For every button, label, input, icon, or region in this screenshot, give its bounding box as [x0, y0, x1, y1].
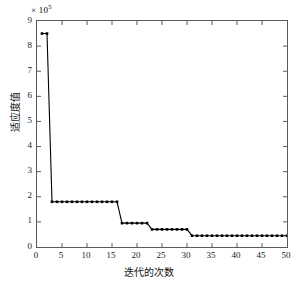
- data-point-marker: [51, 201, 54, 204]
- data-point-marker: [171, 228, 174, 231]
- data-point-marker: [276, 234, 279, 237]
- data-point-marker: [236, 234, 239, 237]
- y-axis-multiplier-base: × 10: [31, 5, 48, 15]
- y-axis-multiplier-exponent: 5: [48, 3, 51, 10]
- data-point-marker: [131, 222, 134, 225]
- data-point-marker: [251, 234, 254, 237]
- data-point-marker: [116, 201, 119, 204]
- data-point-marker: [106, 201, 109, 204]
- x-axis-tick-label: 10: [74, 251, 98, 260]
- x-axis-tick-label: 40: [224, 251, 248, 260]
- y-axis-tick-label: 3: [8, 166, 32, 175]
- data-point-marker: [41, 32, 44, 35]
- data-point-marker: [231, 234, 234, 237]
- data-point-markers: [41, 32, 287, 237]
- data-point-marker: [281, 234, 284, 237]
- y-axis-tick-label: 8: [8, 41, 32, 50]
- data-point-marker: [271, 234, 274, 237]
- data-point-marker: [136, 222, 139, 225]
- data-point-marker: [201, 234, 204, 237]
- data-point-marker: [141, 222, 144, 225]
- data-point-marker: [156, 228, 159, 231]
- data-point-marker: [166, 228, 169, 231]
- data-point-marker: [121, 222, 124, 225]
- data-point-marker: [196, 234, 199, 237]
- data-point-marker: [146, 222, 149, 225]
- data-point-marker: [61, 201, 64, 204]
- x-axis-tick-label: 20: [124, 251, 148, 260]
- data-point-marker: [216, 234, 219, 237]
- data-point-marker: [151, 228, 154, 231]
- data-point-marker: [206, 234, 209, 237]
- axis-tick-marks: [37, 21, 287, 247]
- fitness-convergence-chart: × 105 0123456789 05101520253035404550 迭代…: [0, 0, 298, 287]
- data-point-marker: [241, 234, 244, 237]
- x-axis-tick-label: 0: [24, 251, 48, 260]
- x-axis-tick-label: 25: [149, 251, 173, 260]
- data-point-marker: [186, 228, 189, 231]
- data-point-marker: [211, 234, 214, 237]
- data-point-marker: [91, 201, 94, 204]
- data-point-marker: [246, 234, 249, 237]
- x-axis-tick-label: 15: [99, 251, 123, 260]
- y-axis-tick-label: 1: [8, 216, 32, 225]
- y-axis-tick-label: 9: [8, 16, 32, 25]
- data-point-marker: [86, 201, 89, 204]
- data-point-marker: [66, 201, 69, 204]
- data-point-marker: [76, 201, 79, 204]
- y-axis-tick-label: 0: [8, 242, 32, 251]
- data-point-marker: [71, 201, 74, 204]
- x-axis-tick-label: 35: [199, 251, 223, 260]
- y-axis-tick-label: 2: [8, 191, 32, 200]
- data-point-marker: [56, 201, 59, 204]
- data-point-marker: [181, 228, 184, 231]
- data-point-marker: [126, 222, 129, 225]
- data-point-marker: [81, 201, 84, 204]
- data-point-marker: [176, 228, 179, 231]
- x-axis-tick-label: 30: [174, 251, 198, 260]
- x-axis-tick-label: 50: [274, 251, 298, 260]
- y-axis-title: 适应度值: [7, 72, 22, 152]
- x-axis-tick-label: 45: [249, 251, 273, 260]
- plot-canvas: [37, 21, 287, 247]
- data-point-marker: [266, 234, 269, 237]
- plot-area: [36, 20, 288, 248]
- data-point-marker: [191, 234, 194, 237]
- data-point-marker: [221, 234, 224, 237]
- data-point-marker: [46, 32, 49, 35]
- data-point-marker: [286, 234, 287, 237]
- x-axis-title: 迭代的次数: [0, 264, 298, 279]
- data-point-marker: [96, 201, 99, 204]
- x-axis-tick-label: 5: [49, 251, 73, 260]
- data-point-marker: [111, 201, 114, 204]
- data-point-marker: [256, 234, 259, 237]
- data-point-marker: [101, 201, 104, 204]
- data-point-marker: [226, 234, 229, 237]
- data-point-marker: [261, 234, 264, 237]
- y-axis-multiplier-label: × 105: [31, 2, 52, 15]
- data-line: [42, 34, 287, 236]
- data-point-marker: [161, 228, 164, 231]
